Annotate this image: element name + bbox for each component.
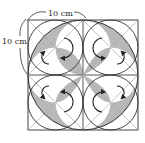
left-dimension-label: 10 cm (2, 37, 27, 46)
top-dimension-label: 10 cm (47, 9, 74, 18)
left-dimension-arc (20, 19, 26, 36)
geometry-diagram (0, 0, 145, 143)
